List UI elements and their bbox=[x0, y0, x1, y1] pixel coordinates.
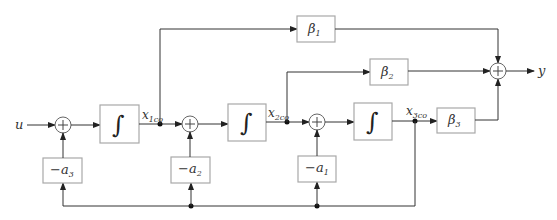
integral-icon: ∫ bbox=[240, 109, 253, 137]
summing-junction-2 bbox=[182, 116, 198, 132]
output-summing-junction bbox=[490, 63, 506, 79]
output-label: y bbox=[537, 63, 546, 78]
integral-icon: ∫ bbox=[112, 111, 125, 139]
state-label-2: x2co bbox=[268, 106, 289, 122]
summing-junction-3 bbox=[309, 114, 325, 130]
integral-icon: ∫ bbox=[366, 108, 379, 136]
state-label-3: x3co bbox=[406, 104, 427, 120]
block-diagram: u ∫ x1co β1 ∫ x2co β2 ∫ x3co bbox=[0, 0, 557, 220]
input-label: u bbox=[15, 117, 23, 132]
summing-junction-1 bbox=[55, 117, 71, 133]
